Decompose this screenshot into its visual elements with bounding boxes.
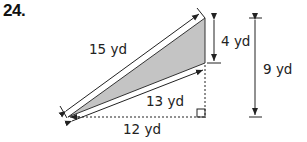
shaded-triangle bbox=[68, 18, 205, 117]
dimension-9yd bbox=[249, 18, 262, 117]
label-9yd: 9 yd bbox=[263, 61, 292, 77]
right-angle-marker bbox=[197, 109, 205, 117]
label-4yd: 4 yd bbox=[221, 33, 250, 49]
dimension-4yd bbox=[207, 20, 221, 63]
triangle-diagram: 15 yd 13 yd 12 yd 4 yd 9 yd bbox=[0, 0, 307, 142]
label-12yd: 12 yd bbox=[123, 121, 161, 137]
label-15yd: 15 yd bbox=[89, 41, 127, 57]
label-13yd: 13 yd bbox=[146, 93, 184, 109]
